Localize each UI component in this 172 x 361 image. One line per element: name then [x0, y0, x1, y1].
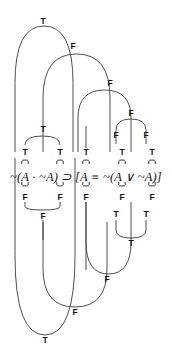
- truth-value-t: T: [143, 210, 148, 219]
- truth-tree-diagram: ~(A · ~A) ⊃ [A ≡ ~(A ∨ ~A)] TFFFTTTTTTFF…: [0, 0, 172, 361]
- truth-value-f: F: [83, 193, 88, 202]
- bracket-top-1: [22, 160, 28, 164]
- truth-value-t: T: [113, 210, 118, 219]
- truth-value-f: F: [22, 193, 27, 202]
- truth-value-f: F: [113, 131, 118, 140]
- truth-value-t: T: [149, 148, 154, 157]
- conn-upper-dot: [25, 136, 60, 145]
- truth-value-f: F: [57, 193, 62, 202]
- truth-value-t: T: [57, 148, 62, 157]
- truth-value-f: F: [40, 212, 45, 221]
- truth-value-f: F: [119, 193, 124, 202]
- truth-value-f: F: [149, 193, 154, 202]
- truth-value-t: T: [128, 239, 133, 248]
- bracket-top-4: [119, 160, 125, 164]
- logic-formula: ~(A · ~A) ⊃ [A ≡ ~(A ∨ ~A)]: [0, 169, 172, 185]
- bracket-top-3: [83, 160, 89, 164]
- truth-value-t: T: [22, 148, 27, 157]
- truth-value-t: T: [40, 17, 45, 26]
- truth-value-f: F: [72, 308, 77, 317]
- arc-bot-l345: [86, 202, 131, 274]
- truth-value-f: F: [107, 79, 112, 88]
- truth-value-t: T: [40, 125, 45, 134]
- truth-value-t: T: [119, 148, 124, 157]
- truth-value-f: F: [70, 42, 75, 51]
- truth-value-t: T: [42, 336, 47, 345]
- truth-value-f: F: [143, 131, 148, 140]
- truth-value-f: F: [128, 109, 133, 118]
- truth-value-f: F: [104, 275, 109, 284]
- truth-value-t: T: [83, 148, 88, 157]
- bracket-top-5: [149, 160, 155, 164]
- bracket-top-2: [57, 160, 63, 164]
- arc-bot-dot: [25, 202, 60, 210]
